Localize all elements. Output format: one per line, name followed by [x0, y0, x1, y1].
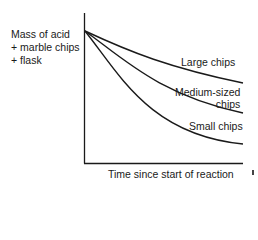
edge-mark: [252, 170, 254, 175]
label-small-chips: Small chips: [189, 120, 243, 132]
label-large-chips: Large chips: [181, 56, 235, 68]
label-medium-chips: Medium-sized chips: [175, 86, 240, 110]
x-axis-label: Time since start of reaction: [108, 168, 234, 180]
